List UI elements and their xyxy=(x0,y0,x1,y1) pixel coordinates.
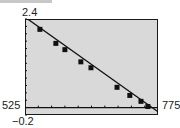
data-point-marker xyxy=(37,27,42,32)
data-point-marker xyxy=(53,41,58,46)
plot-svg xyxy=(0,0,180,128)
data-point-marker xyxy=(62,47,67,52)
data-point-marker xyxy=(88,65,93,70)
data-point-marker xyxy=(127,93,132,98)
data-point-marker xyxy=(138,99,143,104)
regression-line xyxy=(25,17,158,112)
data-point-marker xyxy=(145,104,150,109)
data-point-marker xyxy=(78,59,83,64)
data-point-marker xyxy=(115,85,120,90)
